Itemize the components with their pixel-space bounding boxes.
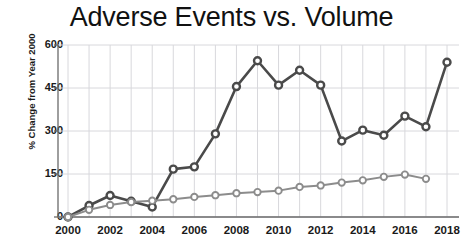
series-line-1 [68,175,426,217]
data-point [317,182,323,188]
data-point [423,176,429,182]
data-point [233,83,240,90]
data-point [275,187,281,193]
data-point [212,130,219,137]
data-point [359,127,366,134]
data-point [381,174,387,180]
data-point [128,199,134,205]
data-point [422,123,429,130]
data-point [254,57,261,64]
data-point [339,179,345,185]
data-point [86,207,92,213]
data-point [149,197,155,203]
data-point [170,166,177,173]
chart-container: Adverse Events vs. Volume % Change from … [0,0,463,244]
data-point [338,138,345,145]
data-point [191,194,197,200]
data-point [107,192,114,199]
data-point [444,59,451,66]
data-point [296,67,303,74]
data-point [212,192,218,198]
data-point [233,190,239,196]
plot-area [0,0,463,244]
data-point [170,196,176,202]
data-point [254,189,260,195]
data-point [65,214,71,220]
data-point [402,171,408,177]
data-point [317,82,324,89]
data-point [296,184,302,190]
data-point [191,163,198,170]
data-point [401,113,408,120]
data-point [360,177,366,183]
data-point [275,82,282,89]
data-point [380,132,387,139]
data-point [107,202,113,208]
